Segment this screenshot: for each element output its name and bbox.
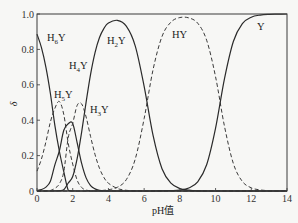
x-tick-label: 12 (246, 193, 256, 204)
curve-hy (37, 17, 287, 191)
y-tick-label: 0.6 (22, 79, 35, 90)
curve-h5y (37, 101, 287, 191)
species-curves (37, 14, 287, 191)
species-label-hy: HY (172, 29, 188, 40)
species-label-h4y: H4Y (69, 60, 88, 74)
species-labels: H6YH5YH4YH3YH2YHYY (47, 21, 265, 118)
species-label-h6y: H6Y (47, 32, 66, 46)
y-tick-label: 0.2 (22, 150, 35, 161)
y-axis-title: δ (8, 101, 19, 106)
species-label-y: Y (257, 21, 265, 32)
y-tick-label: 0.4 (22, 115, 35, 126)
plot-frame (37, 14, 287, 191)
species-label-h3y: H3Y (90, 104, 109, 118)
curve-h4y (37, 122, 287, 191)
x-tick-label: 6 (142, 193, 147, 204)
species-label-h5y: H5Y (54, 89, 73, 103)
x-tick-label: 14 (282, 193, 292, 204)
x-axis-title: pH值 (152, 204, 174, 216)
x-tick-label: 4 (106, 193, 111, 204)
y-tick-label: 1.0 (22, 9, 35, 20)
species-label-h2y: H2Y (107, 35, 126, 49)
distribution-chart: 02468101214 00.20.40.60.81.0 H6YH5YH4YH3… (0, 0, 298, 223)
x-tick-label: 10 (211, 193, 221, 204)
curve-h3y (37, 103, 287, 191)
x-tick-label: 8 (177, 193, 182, 204)
x-tick-label: 2 (70, 193, 75, 204)
y-tick-label: 0.8 (22, 44, 35, 55)
y-tick-label: 0 (29, 186, 34, 197)
x-tick-label: 0 (35, 193, 40, 204)
curve-y (37, 14, 287, 191)
curve-h2y (37, 20, 287, 191)
